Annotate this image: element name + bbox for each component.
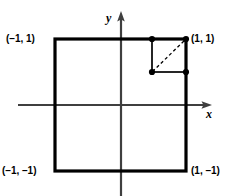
point-inner-bottom-left — [149, 69, 155, 75]
point-inner-top-left — [149, 36, 155, 42]
inner-square-diagonal — [153, 40, 186, 72]
x-axis-label: x — [206, 107, 212, 122]
coordinate-plane-figure: (–1, 1) (1, 1) (–1, –1) (1, –1) y x — [0, 0, 231, 196]
corner-label-top-right: (1, 1) — [191, 33, 214, 44]
corner-label-top-left: (–1, 1) — [6, 33, 35, 44]
corner-label-bottom-left: (–1, –1) — [2, 165, 36, 176]
y-axis-label: y — [106, 11, 111, 26]
inner-square-group — [149, 36, 189, 75]
point-inner-bottom-right — [183, 69, 189, 75]
corner-label-bottom-right: (1, –1) — [191, 165, 220, 176]
point-inner-top-right — [183, 36, 189, 42]
